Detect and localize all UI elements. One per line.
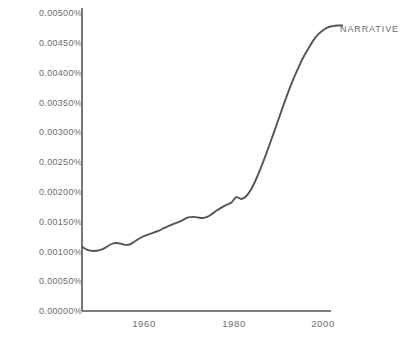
y-tick-label: 0.00250%	[8, 157, 82, 167]
x-tick-label: 1980	[222, 318, 246, 329]
series-label-narrative: NARRATIVE	[340, 24, 399, 34]
y-tick-label: 0.00100%	[8, 247, 82, 257]
y-tick-label: 0.00450%	[8, 38, 82, 48]
y-tick-label: 0.00200%	[8, 187, 82, 197]
series-line-narrative	[82, 25, 342, 250]
y-tick-label: 0.00050%	[8, 276, 82, 286]
y-tick-label: 0.00500%	[8, 8, 82, 18]
y-tick-label: 0.00150%	[8, 217, 82, 227]
chart-plot-area	[0, 0, 408, 343]
y-tick-label: 0.00400%	[8, 68, 82, 78]
x-tick-label: 1960	[132, 318, 156, 329]
y-tick-label: 0.00300%	[8, 127, 82, 137]
x-tick-label: 2000	[311, 318, 335, 329]
chart-container: 0.00500% 0.00450% 0.00400% 0.00350% 0.00…	[0, 0, 408, 343]
y-tick-label: 0.00350%	[8, 98, 82, 108]
y-tick-label: 0.00000%	[8, 306, 82, 316]
